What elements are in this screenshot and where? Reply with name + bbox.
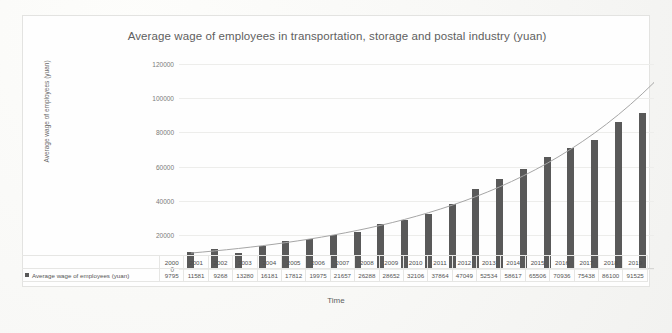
bar-slot	[393, 64, 417, 269]
plot-area: 020000400006000080000100000120000	[179, 64, 654, 269]
bar-slot	[630, 64, 654, 269]
table-cell-year: 2007	[330, 256, 354, 269]
y-axis-tick-label: 40000	[156, 197, 174, 204]
bar-slot	[345, 64, 369, 269]
table-cell-year: 2001	[184, 256, 208, 269]
bar-slot	[440, 64, 464, 269]
table-cell-value: 91525	[623, 269, 648, 282]
table-cell-value: 26288	[355, 269, 379, 282]
bar-slot	[417, 64, 441, 269]
table-cell-year: 2004	[257, 256, 281, 269]
y-axis-title: Average wage of employees (yuan)	[43, 37, 50, 187]
y-axis-tick-label: 100000	[152, 95, 174, 102]
table-cell-year: 2014	[501, 256, 525, 269]
table-cell-year: 2010	[403, 256, 427, 269]
table-cell-value: 11581	[184, 269, 208, 282]
bar-slot	[322, 64, 346, 269]
bar	[520, 169, 527, 269]
bar-slot	[607, 64, 631, 269]
table-cell-year: 2009	[379, 256, 403, 269]
bar-slot	[203, 64, 227, 269]
table-cell-value: 47049	[452, 269, 476, 282]
table-cell-year: 2011	[428, 256, 452, 269]
table-cell-year: 2015	[525, 256, 549, 269]
x-axis-title: Time	[0, 296, 672, 305]
table-cell-value: 37864	[428, 269, 452, 282]
bar-slot	[535, 64, 559, 269]
table-cell-value: 70936	[550, 269, 574, 282]
legend-marker-icon	[25, 273, 29, 277]
table-cell-year: 2000	[160, 256, 184, 269]
table-cell-value: 16181	[257, 269, 281, 282]
bar	[615, 122, 622, 269]
bar-slot	[512, 64, 536, 269]
bar-slot	[559, 64, 583, 269]
bar-slot	[464, 64, 488, 269]
table-cell-year: 2016	[550, 256, 574, 269]
table-cell-year: 2013	[477, 256, 501, 269]
y-axis-tick-label: 120000	[152, 61, 174, 68]
table-cell-value: 65506	[525, 269, 549, 282]
table-cell-value: 75438	[574, 269, 598, 282]
table-cell-year: 2012	[452, 256, 476, 269]
table-cell-year: 2005	[281, 256, 305, 269]
table-cell-value: 9795	[160, 269, 184, 282]
y-axis-tick-label: 20000	[156, 231, 174, 238]
chart-title: Average wage of employees in transportat…	[23, 30, 651, 42]
table-cell-year: 2018	[599, 256, 623, 269]
bar-slot	[583, 64, 607, 269]
table-cell-value: 19975	[306, 269, 330, 282]
table-row-years: 2000200120022003200420052006200720082009…	[22, 256, 648, 269]
table-cell-year: 2008	[355, 256, 379, 269]
table-cell-year: 2019	[623, 256, 648, 269]
table-cell-value: 32106	[403, 269, 427, 282]
table-corner-cell	[22, 256, 160, 269]
table-cell-value: 17812	[281, 269, 305, 282]
table-cell-value: 13280	[233, 269, 257, 282]
legend-label: Average wage of employees (yuan)	[32, 272, 129, 279]
bar	[544, 157, 551, 269]
y-axis-tick-label: 60000	[156, 163, 174, 170]
legend-entry: Average wage of employees (yuan)	[22, 269, 160, 282]
table-cell-year: 2017	[574, 256, 598, 269]
bar-slot	[227, 64, 251, 269]
bar-slot	[274, 64, 298, 269]
chart-page: Average wage of employees in transportat…	[0, 0, 672, 333]
table-cell-value: 86100	[599, 269, 623, 282]
table-cell-value: 9268	[208, 269, 232, 282]
table-cell-value: 58617	[501, 269, 525, 282]
bar-slot	[298, 64, 322, 269]
chart-frame: Average wage of employees in transportat…	[22, 15, 650, 287]
data-table: 2000200120022003200420052006200720082009…	[22, 255, 648, 282]
bar-slot	[179, 64, 203, 269]
bar	[591, 140, 598, 269]
bar-series	[179, 64, 654, 269]
bar	[567, 148, 574, 269]
table-row-values: Average wage of employees (yuan) 9795115…	[22, 269, 648, 282]
bar	[639, 113, 646, 269]
bar-slot	[488, 64, 512, 269]
y-axis-tick-label: 80000	[156, 129, 174, 136]
table-cell-value: 28652	[379, 269, 403, 282]
table-cell-value: 21657	[330, 269, 354, 282]
table-cell-year: 2002	[208, 256, 232, 269]
bar-slot	[250, 64, 274, 269]
table-cell-year: 2003	[233, 256, 257, 269]
bar-slot	[369, 64, 393, 269]
table-cell-year: 2006	[306, 256, 330, 269]
table-cell-value: 52534	[477, 269, 501, 282]
